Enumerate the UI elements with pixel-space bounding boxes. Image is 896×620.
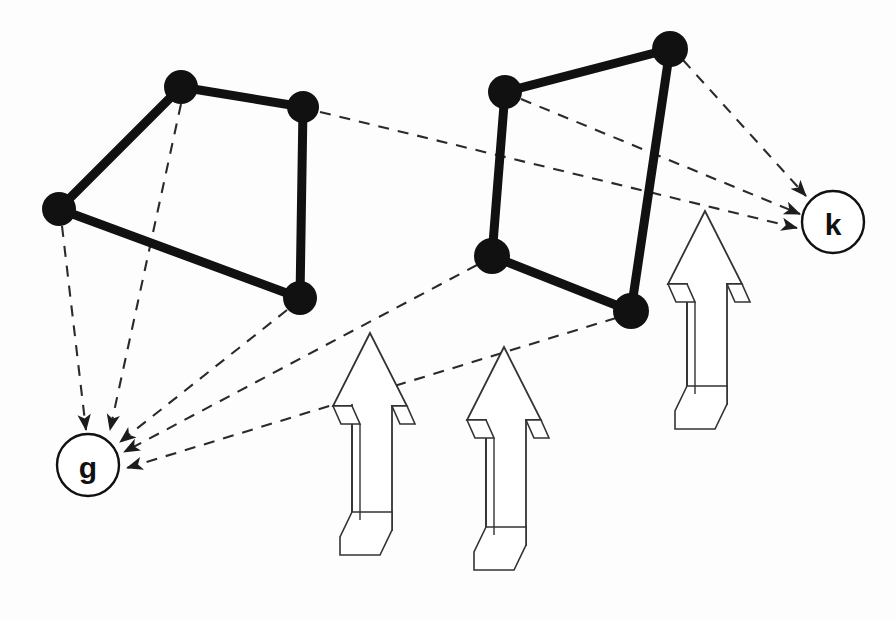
labelled-node-k-label: k	[825, 208, 842, 241]
edge-R1-R2	[505, 49, 670, 92]
cluster-node-L2[interactable]	[287, 91, 319, 123]
block-arrow-left-body	[333, 333, 407, 530]
block-arrow-middle-right-depth	[526, 420, 549, 438]
cluster-node-R4[interactable]	[613, 293, 649, 329]
block-arrow-left	[333, 333, 415, 555]
mapping-edge-L2-k	[320, 112, 797, 228]
cluster-node-R3[interactable]	[474, 238, 510, 274]
edge-R3-R4	[492, 256, 631, 311]
edge-L2-L4	[300, 107, 303, 298]
cluster-node-L4[interactable]	[283, 281, 317, 315]
edge-R1-R3	[492, 92, 505, 256]
mapping-edge-R2-k	[683, 60, 806, 196]
block-arrow-middle	[467, 347, 549, 570]
edge-R2-R4	[631, 49, 670, 311]
block-arrow-left-base-depth	[340, 512, 392, 555]
cluster-node-L3[interactable]	[42, 192, 76, 226]
block-arrow-middle-base-depth	[474, 527, 526, 570]
edge-L1-L2	[181, 87, 303, 107]
cluster-node-R2[interactable]	[652, 31, 688, 67]
block-arrow-right-right-depth	[727, 284, 750, 302]
labelled-node-g-label: g	[79, 451, 97, 484]
left-quadrilateral-edges	[59, 87, 303, 298]
diagram-canvas: g k	[0, 0, 896, 620]
block-arrow-middle-body	[467, 347, 541, 545]
mapping-edge-L4-g	[120, 310, 287, 442]
cluster-node-R1[interactable]	[488, 75, 522, 109]
labelled-node-k[interactable]: k	[802, 191, 864, 253]
edge-L3-L4	[59, 209, 300, 298]
mapping-edge-L3-g	[62, 226, 86, 430]
cluster-node-group	[42, 31, 688, 329]
labelled-node-g[interactable]: g	[57, 434, 119, 496]
block-arrow-right	[668, 211, 750, 429]
block-arrow-right-base-depth	[675, 386, 727, 429]
block-arrow-right-body	[668, 211, 742, 404]
cluster-node-L1[interactable]	[164, 70, 198, 104]
diagram-svg: g k	[0, 0, 896, 620]
block-arrow-left-right-depth	[392, 406, 415, 424]
block-arrow-group	[333, 211, 750, 570]
